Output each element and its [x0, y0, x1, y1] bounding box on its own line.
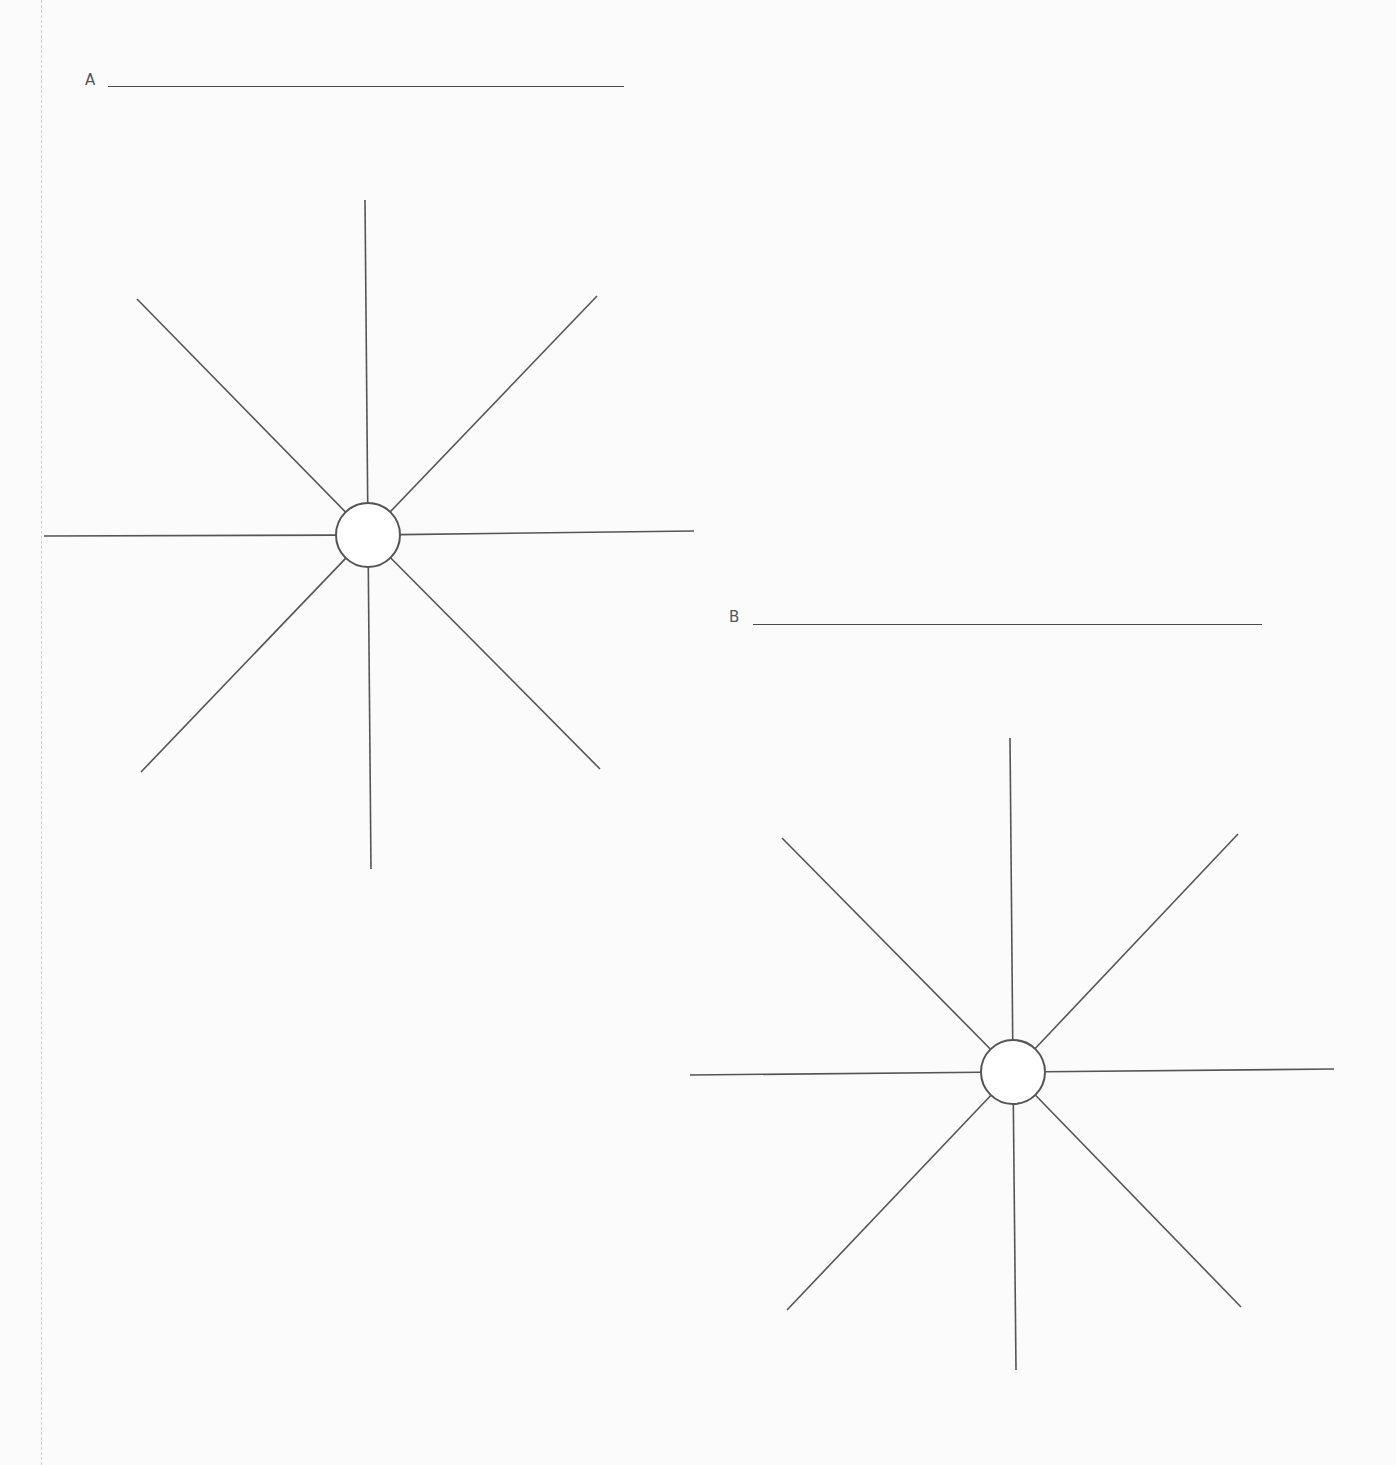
center-circle: [981, 1040, 1045, 1104]
spoke-line: [690, 1072, 981, 1075]
diagram-a-spoke-wheel: [44, 200, 694, 869]
spoke-line: [1035, 834, 1238, 1049]
spoke-line: [365, 200, 368, 503]
spoke-line: [400, 531, 694, 535]
spoke-line: [787, 1095, 991, 1310]
spoke-line: [368, 567, 371, 869]
spoke-diagrams: [0, 0, 1396, 1465]
diagram-b-spoke-wheel: [690, 738, 1334, 1370]
spoke-line: [44, 535, 336, 536]
spoke-line: [1045, 1069, 1334, 1072]
center-circle: [336, 503, 400, 567]
spoke-line: [391, 558, 600, 769]
spoke-line: [137, 299, 346, 512]
spoke-line: [1010, 738, 1013, 1040]
spoke-line: [390, 296, 597, 512]
spoke-line: [782, 838, 991, 1049]
spoke-line: [1013, 1104, 1016, 1370]
spoke-line: [1035, 1095, 1241, 1307]
spoke-line: [141, 558, 346, 772]
